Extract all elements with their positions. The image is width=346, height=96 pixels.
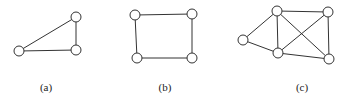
graph-node [130,10,140,20]
graph-edge [277,11,278,53]
panel-c-label: (c) [296,81,308,93]
graph-edge [278,12,328,53]
graph-panel-b [130,9,197,63]
graph-edge [243,11,277,40]
graph-edge [328,12,329,59]
graph-edge [19,17,76,51]
graph-node [272,6,282,16]
panel-b-label: (b) [159,81,172,93]
graph-panel-c [238,6,334,64]
graph-panel-a [14,12,81,56]
panel-a-label: (a) [40,81,52,93]
graph-edge [277,11,328,12]
graph-node [324,54,334,64]
graph-node [187,53,197,63]
graph-edge [19,50,76,51]
graph-node [71,12,81,22]
graph-node [71,45,81,55]
graph-edge [135,14,192,15]
graph-node [14,46,24,56]
graph-node [238,35,248,45]
graph-edge [135,15,137,58]
graph-node [323,7,333,17]
graph-node [132,53,142,63]
graph-node [273,48,283,58]
graph-node [187,9,197,19]
graph-edge [278,53,329,59]
graph-edge [243,40,278,53]
